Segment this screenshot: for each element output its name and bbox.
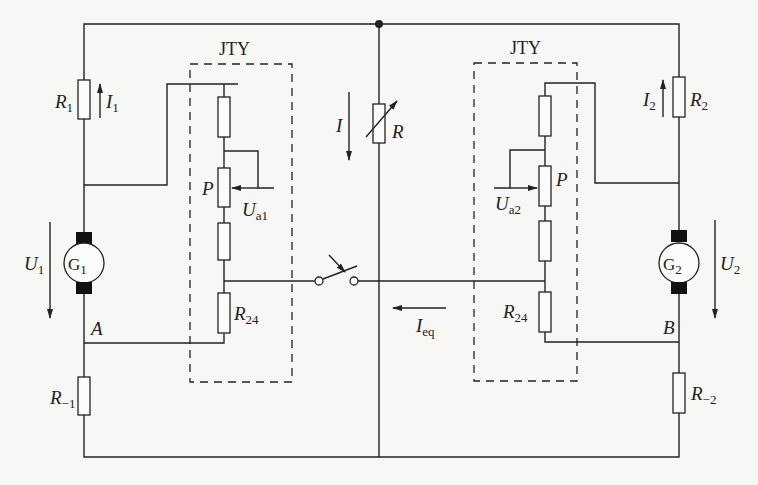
rheostat-r	[373, 104, 385, 143]
switch-contact-left	[315, 277, 323, 285]
svg-text:Ieq: Ieq	[415, 315, 435, 339]
circuit-svg: JTY JTY R1 I1 I R I2 R2 P Ua1 P Ua2 G1 G…	[0, 0, 758, 485]
right-jty	[474, 63, 679, 381]
svg-text:R−2: R−2	[690, 383, 716, 407]
resistor-r-1	[78, 377, 90, 415]
svg-text:U1: U1	[24, 253, 44, 277]
svg-text:P: P	[555, 169, 568, 190]
svg-text:R24: R24	[502, 301, 528, 325]
main-wires	[84, 20, 679, 457]
labels: JTY JTY R1 I1 I R I2 R2 P Ua1 P Ua2 G1 G…	[24, 38, 740, 411]
junction-dot	[375, 20, 383, 28]
svg-text:R24: R24	[233, 303, 259, 327]
potentiometer-p-left	[218, 168, 230, 207]
right-jty-boundary	[474, 63, 577, 381]
center-rheostat	[349, 92, 397, 160]
svg-text:I2: I2	[642, 89, 656, 113]
g2-brush-bottom	[671, 282, 687, 294]
left-jty	[190, 64, 292, 382]
resistor-r1	[78, 80, 90, 119]
g1-brush-top	[76, 232, 92, 244]
switch-contact-right	[350, 277, 358, 285]
potentiometer-p-right	[539, 166, 551, 206]
label-jty-left: JTY	[219, 39, 250, 59]
svg-text:I1: I1	[105, 91, 119, 115]
svg-text:R2: R2	[689, 89, 708, 113]
resistor-r2	[673, 77, 685, 117]
equalizer-link	[224, 255, 545, 308]
resistor-r24-left	[218, 293, 230, 333]
g1-brush-bottom	[76, 282, 92, 294]
svg-text:R: R	[391, 121, 404, 142]
svg-text:R1: R1	[54, 91, 73, 115]
circuit-diagram: JTY JTY R1 I1 I R I2 R2 P Ua1 P Ua2 G1 G…	[0, 0, 758, 485]
svg-text:Ua1: Ua1	[242, 199, 268, 223]
svg-text:B: B	[663, 317, 675, 338]
g2-brush-top	[671, 230, 687, 242]
svg-text:I: I	[335, 115, 344, 136]
left-jty-boundary	[190, 64, 292, 382]
resistor-r24-right	[539, 292, 551, 332]
label-jty-right: JTY	[510, 38, 541, 58]
svg-text:U2: U2	[720, 253, 740, 277]
svg-text:P: P	[201, 178, 214, 199]
resistor-r-2	[673, 373, 685, 413]
svg-text:A: A	[89, 318, 103, 339]
right-branch	[659, 77, 715, 413]
svg-text:Ua2: Ua2	[495, 193, 521, 217]
left-branch	[50, 80, 238, 415]
svg-text:R−1: R−1	[49, 387, 75, 411]
